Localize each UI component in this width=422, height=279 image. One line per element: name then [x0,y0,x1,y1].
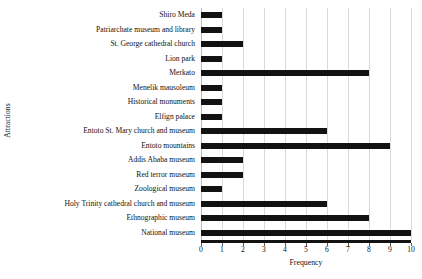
y-axis-title-label: Attractions [3,103,12,137]
category-axis-labels: Shiro MedaPatriarchate museum and librar… [14,8,198,240]
bar-slot [201,8,411,23]
bar-slot [201,110,411,125]
bar [201,143,390,149]
category-label: Shiro Meda [14,8,198,23]
category-label: Merkato [14,66,198,81]
bar-series [201,8,411,240]
category-label: Historical monuments [14,95,198,110]
category-label: St. George cathedral church [14,37,198,52]
bar [201,114,222,120]
category-label: Elfign palace [14,110,198,125]
x-tick-label: 7 [346,245,350,254]
bar [201,186,222,192]
bar [201,12,222,18]
x-axis-title: Frequency [201,258,411,267]
bar [201,201,327,207]
category-label: National museum [14,226,198,241]
plot-area [201,8,411,240]
bar [201,99,222,105]
bar-slot [201,52,411,67]
bar [201,85,222,91]
x-tick-label: 4 [283,245,287,254]
category-label: Zoological museum [14,182,198,197]
bar [201,215,369,221]
x-tick-label: 10 [407,245,415,254]
bar-slot [201,95,411,110]
x-tick-label: 2 [241,245,245,254]
bar-slot [201,37,411,52]
bar [201,27,222,33]
bar [201,56,222,62]
x-tick-label: 6 [325,245,329,254]
category-label: Holy Trinity cathedral church and museum [14,197,198,212]
gridline [411,8,412,240]
bar-slot [201,23,411,38]
bar [201,172,243,178]
bar-slot [201,139,411,154]
category-label: Lion park [14,52,198,67]
category-label: Ethnographic museum [14,211,198,226]
bar [201,70,369,76]
bar-slot [201,182,411,197]
bar-slot [201,124,411,139]
bar-slot [201,66,411,81]
x-tick-label: 0 [199,245,203,254]
bar [201,128,327,134]
bar-slot [201,197,411,212]
bar-chart: Attractions Shiro MedaPatriarchate museu… [0,0,422,279]
x-tick-label: 3 [262,245,266,254]
bar-slot [201,81,411,96]
bar-slot [201,211,411,226]
category-label: Menelik mausoleum [14,81,198,96]
bar [201,41,243,47]
x-tick-label: 1 [220,245,224,254]
category-label: Patriarchate museum and library [14,23,198,38]
bar-slot [201,226,411,241]
x-axis-tick-labels: 012345678910 [201,245,411,257]
bar [201,157,243,163]
bar-slot [201,153,411,168]
bar-slot [201,168,411,183]
x-tick-label: 9 [388,245,392,254]
x-tick-label: 5 [304,245,308,254]
category-label: Entoto mountains [14,139,198,154]
category-label: Red terror museum [14,168,198,183]
bar [201,230,411,236]
y-axis-title: Attractions [0,0,14,240]
x-tick-label: 8 [367,245,371,254]
category-label: Entoto St. Mary church and museum [14,124,198,139]
category-label: Addis Ababa museum [14,153,198,168]
